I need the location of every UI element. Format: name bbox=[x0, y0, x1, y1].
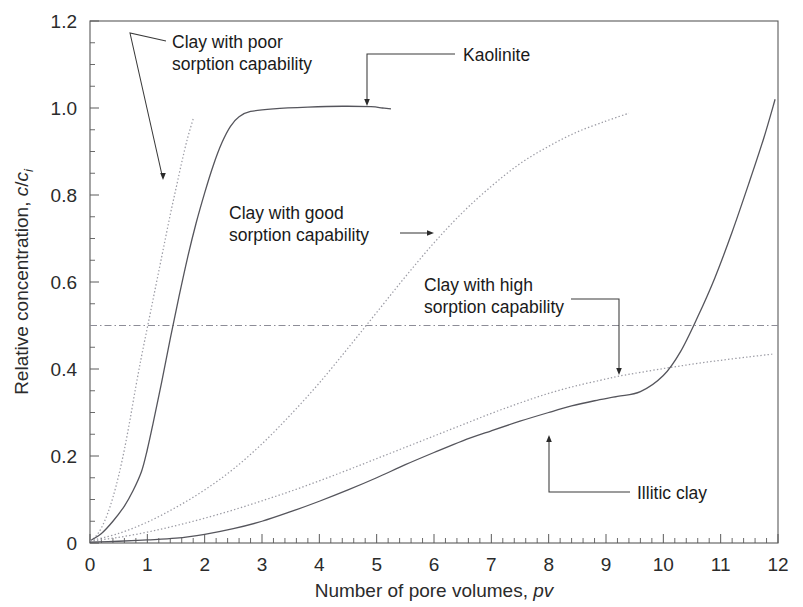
x-tick-label: 7 bbox=[486, 554, 497, 575]
x-tick-label: 2 bbox=[199, 554, 210, 575]
x-tick-label: 3 bbox=[257, 554, 268, 575]
annotation-label: Illitic clay bbox=[637, 483, 707, 503]
x-tick-label: 12 bbox=[767, 554, 788, 575]
x-tick-label: 0 bbox=[85, 554, 96, 575]
x-tick-label: 10 bbox=[653, 554, 674, 575]
x-tick-label: 6 bbox=[429, 554, 440, 575]
breakthrough-curve-chart: 0123456789101112 00.20.40.60.81.01.2 Cla… bbox=[0, 0, 803, 607]
annotation-label-line2: sorption capability bbox=[424, 297, 564, 317]
x-tick-label: 9 bbox=[601, 554, 612, 575]
y-tick-label: 0 bbox=[66, 533, 77, 554]
x-tick-label: 8 bbox=[543, 554, 554, 575]
y-axis-title-c2: c bbox=[11, 172, 32, 182]
annotation-label: Clay with good bbox=[229, 203, 344, 223]
x-axis-title-text: Number of pore volumes, bbox=[315, 580, 534, 601]
y-tick-label: 0.4 bbox=[51, 359, 78, 380]
x-tick-label: 1 bbox=[142, 554, 153, 575]
annotation-label: Clay with high bbox=[424, 275, 533, 295]
y-tick-label: 0.6 bbox=[51, 272, 77, 293]
x-tick-label: 4 bbox=[314, 554, 325, 575]
annotation-label-line2: sorption capability bbox=[229, 225, 369, 245]
x-axis-title-symbol: pv bbox=[532, 580, 555, 601]
annotation-label: Clay with poor bbox=[172, 32, 283, 52]
y-tick-label: 1.0 bbox=[51, 98, 77, 119]
annotation-label: Kaolinite bbox=[463, 45, 530, 65]
y-tick-label: 0.2 bbox=[51, 446, 77, 467]
y-axis-title-text: Relative concentration, bbox=[11, 196, 32, 395]
x-tick-label: 11 bbox=[711, 554, 731, 575]
y-axis-title-c: c bbox=[11, 186, 32, 196]
annotation-label-line2: sorption capability bbox=[172, 54, 312, 74]
x-axis-title: Number of pore volumes, pv bbox=[315, 580, 555, 601]
chart-background bbox=[0, 0, 803, 607]
y-tick-label: 1.2 bbox=[51, 11, 77, 32]
y-tick-label: 0.8 bbox=[51, 185, 77, 206]
x-tick-label: 5 bbox=[371, 554, 382, 575]
